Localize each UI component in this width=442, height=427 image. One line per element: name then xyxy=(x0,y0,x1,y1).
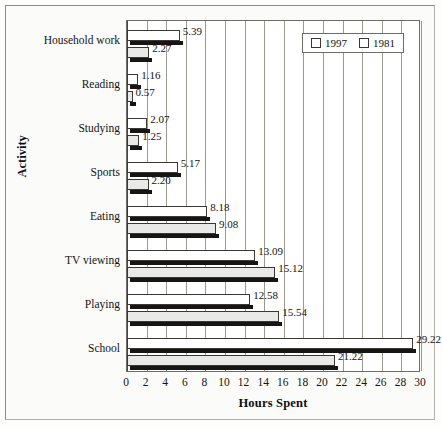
bar-shadow xyxy=(130,146,142,150)
bar-shadow xyxy=(130,349,416,353)
bar-value-label: 12.58 xyxy=(250,290,278,301)
bar-value-label: 9.08 xyxy=(216,219,238,230)
bar-value-label: 5.17 xyxy=(178,158,200,169)
bar-group: 8.189.08 xyxy=(127,197,419,241)
bar-1981: 9.08 xyxy=(127,223,216,234)
bar-rect xyxy=(127,338,413,349)
chart-figure: Activity Household workReadingStudyingSp… xyxy=(0,0,442,427)
bar-rect xyxy=(127,250,255,261)
bar-1997: 8.18 xyxy=(127,206,207,217)
y-axis-tick-label: Eating xyxy=(4,210,120,222)
y-axis-tick-label: School xyxy=(4,342,120,354)
bar-value-label: 2.07 xyxy=(147,114,169,125)
chart-legend: 19971981 xyxy=(302,33,404,53)
gridline xyxy=(421,21,422,371)
bar-rect xyxy=(127,355,335,366)
bar-rect xyxy=(127,74,138,85)
bar-group: 13.0915.12 xyxy=(127,241,419,285)
bar-value-label: 0.57 xyxy=(133,87,155,98)
bar-shadow xyxy=(130,102,136,106)
bar-1997: 5.17 xyxy=(127,162,178,173)
bar-value-label: 15.54 xyxy=(279,307,307,318)
legend-swatch-icon xyxy=(311,38,321,48)
bar-value-label: 1.16 xyxy=(138,70,160,81)
legend-item: 1997 xyxy=(311,37,347,49)
y-axis-tick-label: Household work xyxy=(4,34,120,46)
plot-area: 5.392.271.160.572.071.255.172.208.189.08… xyxy=(126,20,420,372)
bar-rect xyxy=(127,223,216,234)
bar-1981: 15.54 xyxy=(127,311,279,322)
x-axis-tick-label: 30 xyxy=(408,376,432,388)
bar-value-label: 5.39 xyxy=(180,26,202,37)
bar-shadow xyxy=(130,278,278,282)
bar-1997: 13.09 xyxy=(127,250,255,261)
bar-shadow xyxy=(130,234,219,238)
bar-1981: 2.20 xyxy=(127,179,149,190)
bar-rect xyxy=(127,47,149,58)
bar-1981: 21.22 xyxy=(127,355,335,366)
bar-rect xyxy=(127,311,279,322)
bar-shadow xyxy=(130,305,253,309)
bar-1981: 15.12 xyxy=(127,267,275,278)
bar-group: 2.071.25 xyxy=(127,109,419,153)
y-axis-tick-label: Reading xyxy=(4,78,120,90)
legend-swatch-icon xyxy=(359,38,369,48)
bar-1997: 12.58 xyxy=(127,294,250,305)
bar-shadow xyxy=(130,58,152,62)
bar-shadow xyxy=(130,322,282,326)
legend-label: 1997 xyxy=(325,37,347,49)
bar-value-label: 15.12 xyxy=(275,263,303,274)
y-axis-tick-label: Studying xyxy=(4,122,120,134)
bar-rect xyxy=(127,118,147,129)
bar-1981: 0.57 xyxy=(127,91,133,102)
bar-rect xyxy=(127,179,149,190)
y-axis-tick-label: Playing xyxy=(4,298,120,310)
bar-rect xyxy=(127,30,180,41)
bar-1997: 29.22 xyxy=(127,338,413,349)
bar-group: 12.5815.54 xyxy=(127,285,419,329)
legend-label: 1981 xyxy=(373,37,395,49)
bar-value-label: 29.22 xyxy=(413,334,441,345)
y-axis-tick-label: TV viewing xyxy=(4,254,120,266)
bar-rect xyxy=(127,294,250,305)
bar-rect xyxy=(127,135,139,146)
bar-1981: 2.27 xyxy=(127,47,149,58)
bar-rect xyxy=(127,206,207,217)
x-axis-title: Hours Spent xyxy=(126,396,420,411)
y-axis-tick-label: Sports xyxy=(4,166,120,178)
bar-value-label: 8.18 xyxy=(207,202,229,213)
bar-shadow xyxy=(130,217,210,221)
bar-shadow xyxy=(130,366,338,370)
bar-1997: 1.16 xyxy=(127,74,138,85)
bar-1981: 1.25 xyxy=(127,135,139,146)
bar-value-label: 2.27 xyxy=(149,43,171,54)
bar-group: 5.172.20 xyxy=(127,153,419,197)
bar-1997: 5.39 xyxy=(127,30,180,41)
bar-group: 29.2221.22 xyxy=(127,329,419,373)
bar-shadow xyxy=(130,261,258,265)
bar-1997: 2.07 xyxy=(127,118,147,129)
bar-shadow xyxy=(130,190,152,194)
bar-value-label: 1.25 xyxy=(139,131,161,142)
bar-rect xyxy=(127,267,275,278)
bar-rect xyxy=(127,162,178,173)
legend-item: 1981 xyxy=(359,37,395,49)
bar-value-label: 13.09 xyxy=(255,246,283,257)
bar-value-label: 2.20 xyxy=(149,175,171,186)
bar-value-label: 21.22 xyxy=(335,351,363,362)
bar-group: 1.160.57 xyxy=(127,65,419,109)
